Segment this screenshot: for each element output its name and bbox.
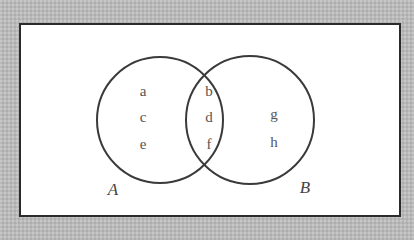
element-d: d	[205, 109, 213, 125]
set-a-label: A	[107, 180, 119, 199]
element-g: g	[270, 106, 278, 122]
venn-diagram: a c e b d f g h A B	[0, 0, 414, 226]
element-c: c	[140, 109, 147, 125]
element-a: a	[140, 83, 147, 99]
element-h: h	[270, 134, 278, 150]
set-b-label: B	[300, 178, 311, 197]
element-b: b	[205, 83, 213, 99]
element-e: e	[140, 136, 147, 152]
element-f: f	[207, 136, 212, 152]
